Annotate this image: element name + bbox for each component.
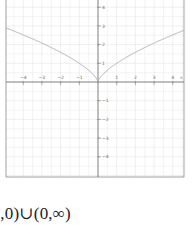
svg-text:−4: −4 [102,154,109,159]
svg-text:−3: −3 [102,136,109,141]
domain-answer-text: ∞,0)∪(0,∞) [0,203,71,224]
svg-text:x: x [180,75,183,80]
svg-text:4: 4 [102,5,105,10]
svg-text:2: 2 [134,75,137,80]
svg-text:−4: −4 [20,75,27,80]
function-graph: −4−3−2−11234−4−3−2−11234x [0,0,195,185]
svg-text:2: 2 [102,42,105,47]
svg-text:1: 1 [115,75,118,80]
grid-lines [6,0,184,177]
svg-text:3: 3 [153,75,156,80]
svg-text:−2: −2 [102,117,109,122]
svg-text:3: 3 [102,24,105,29]
svg-text:−2: −2 [57,75,64,80]
svg-text:−1: −1 [76,75,83,80]
svg-text:1: 1 [102,61,105,66]
svg-text:−1: −1 [102,98,109,103]
svg-text:4: 4 [171,75,174,80]
svg-text:−3: −3 [39,75,46,80]
